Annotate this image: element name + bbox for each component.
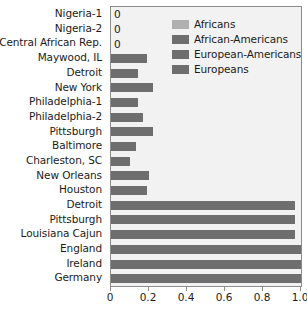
bar-row: [111, 213, 301, 228]
y-axis-label: Louisiana Cajun: [0, 226, 106, 241]
bar: [111, 98, 138, 107]
y-axis-label: New Orleans: [0, 168, 106, 183]
legend-label: European-Americans: [194, 49, 301, 60]
legend-item: European-Americans: [172, 48, 301, 60]
legend-swatch-icon: [172, 50, 189, 59]
y-axis-label: Pittsburgh: [0, 124, 106, 139]
y-axis-label: Philadelphia-1: [0, 94, 106, 109]
bar-row: [111, 183, 301, 198]
bar: [111, 142, 136, 151]
bar-row: [111, 110, 301, 125]
bar-value-label: 0: [114, 24, 121, 35]
y-axis-label: Charleston, SC: [0, 153, 106, 168]
bar-row: [111, 139, 301, 154]
bar: [111, 127, 153, 136]
legend-swatch-icon: [172, 65, 189, 74]
bar-row: [111, 154, 301, 169]
legend-label: Europeans: [194, 64, 249, 75]
legend-item: African-Americans: [172, 33, 301, 45]
legend-item: Africans: [172, 18, 301, 30]
x-axis-tick-label: 0.8: [254, 292, 271, 303]
y-axis-label: Pittsburgh: [0, 212, 106, 227]
bar: [111, 171, 149, 180]
bar-row: [111, 257, 301, 272]
y-axis-label: Detroit: [0, 65, 106, 80]
y-axis-label: Baltimore: [0, 138, 106, 153]
bar-row: [111, 169, 301, 184]
bar-chart: Nigeria-1Nigeria-2Central African Rep.Ma…: [0, 0, 307, 318]
bar-row: [111, 242, 301, 257]
y-axis-label: Germany: [0, 270, 106, 285]
bar: [111, 83, 153, 92]
bar-row: [111, 95, 301, 110]
y-axis-label: Maywood, IL: [0, 50, 106, 65]
y-axis-label: Nigeria-2: [0, 21, 106, 36]
bar-value-label: 0: [114, 9, 121, 20]
y-axis-label-column: Nigeria-1Nigeria-2Central African Rep.Ma…: [0, 6, 106, 285]
bar: [111, 245, 301, 254]
legend-label: African-Americans: [194, 34, 288, 45]
y-axis-label: Houston: [0, 182, 106, 197]
bar: [111, 201, 295, 210]
legend-item: Europeans: [172, 63, 301, 75]
bar-row: [111, 125, 301, 140]
bar-row: [111, 271, 301, 286]
legend-swatch-icon: [172, 35, 189, 44]
x-axis-tick-label: 0: [107, 292, 114, 303]
x-axis-tick-label: 1.0: [292, 292, 307, 303]
bar-row: [111, 80, 301, 95]
y-axis-label: England: [0, 241, 106, 256]
legend: AfricansAfrican-AmericansEuropean-Americ…: [172, 18, 301, 75]
y-axis-label: Detroit: [0, 197, 106, 212]
x-axis-tick-label: 0.4: [178, 292, 195, 303]
bar-row: [111, 198, 301, 213]
x-axis-tick-label: 0.2: [140, 292, 157, 303]
bar: [111, 260, 301, 269]
bar-value-label: 0: [114, 38, 121, 49]
bar: [111, 274, 301, 283]
bar: [111, 113, 143, 122]
x-axis: 00.20.40.60.81.0: [110, 286, 301, 318]
bar: [111, 69, 138, 78]
bar: [111, 157, 130, 166]
y-axis-label: Philadelphia-2: [0, 109, 106, 124]
bar: [111, 230, 295, 239]
y-axis-label: Central African Rep.: [0, 35, 106, 50]
bar: [111, 186, 147, 195]
bar: [111, 215, 295, 224]
y-axis-label: New York: [0, 79, 106, 94]
x-axis-tick-label: 0.6: [216, 292, 233, 303]
bar-row: [111, 227, 301, 242]
y-axis-label: Nigeria-1: [0, 6, 106, 21]
y-axis-label: Ireland: [0, 256, 106, 271]
legend-swatch-icon: [172, 20, 189, 29]
bar: [111, 54, 147, 63]
legend-label: Africans: [194, 19, 235, 30]
